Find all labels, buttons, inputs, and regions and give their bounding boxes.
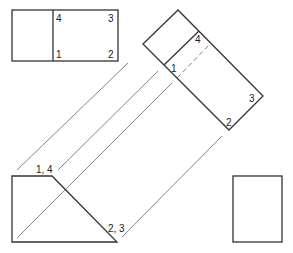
projection-line: [122, 136, 222, 237]
top-label-4: 4: [56, 13, 62, 24]
side-view: [233, 176, 282, 242]
front-label-1-4: 1, 4: [36, 164, 53, 175]
projection-line: [17, 63, 128, 170]
aux-label-1: 1: [171, 63, 177, 74]
front-view: 1, 4 2, 3: [12, 164, 125, 242]
aux-label-3: 3: [249, 93, 255, 104]
front-view-outline: [12, 176, 117, 242]
top-label-1: 1: [56, 49, 62, 60]
top-label-3: 3: [108, 13, 114, 24]
auxiliary-view-outline: [143, 10, 263, 130]
aux-label-4: 4: [195, 34, 201, 45]
side-view-outline: [233, 176, 282, 242]
top-label-2: 2: [108, 49, 114, 60]
top-view: 4 3 1 2: [12, 10, 118, 61]
diagram-canvas: 4 3 1 2 4 1 3 2 1, 4 2, 3: [0, 0, 293, 253]
projection-line: [17, 83, 172, 238]
top-view-outline: [12, 10, 118, 61]
projection-line: [58, 71, 158, 170]
aux-label-2: 2: [226, 117, 232, 128]
front-label-2-3: 2, 3: [108, 223, 125, 234]
auxiliary-view: 4 1 3 2: [143, 10, 263, 130]
projection-lines: [17, 63, 222, 238]
auxiliary-view-divider: [164, 31, 199, 65]
